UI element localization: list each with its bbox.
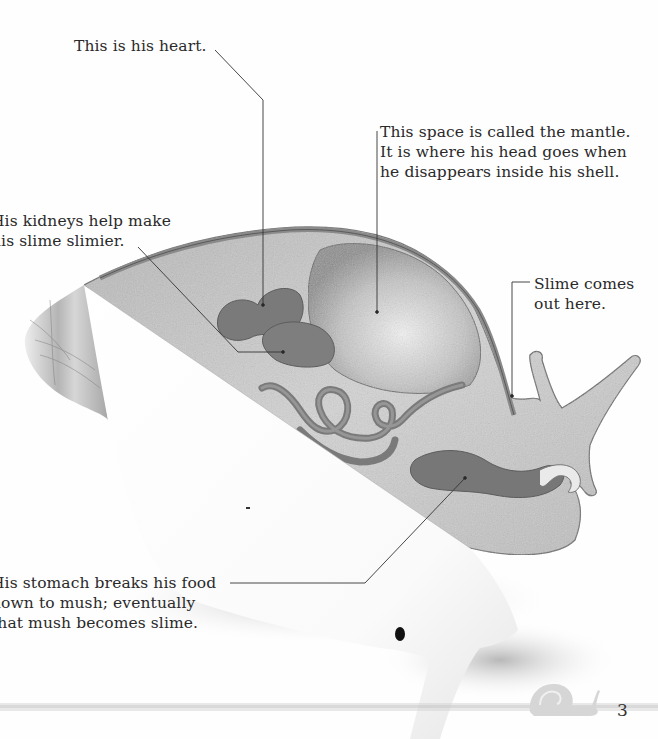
heart-label-line: This is his heart. [74,36,207,56]
speck [246,507,250,509]
footer-snail-icon [530,684,600,716]
slime-label-line-2: out here. [534,294,634,314]
stomach-label: His stomach breaks his food down to mush… [0,573,216,633]
page-number: 3 [617,700,628,720]
slime-leader-line [512,282,530,396]
stomach-label-line-1: His stomach breaks his food [0,573,216,593]
mantle-label-line-1: This space is called the mantle. [380,122,630,142]
mantle-label-line-2: It is where his head goes when [380,142,630,162]
kidneys-label-line-2: his slime slimier. [0,231,171,251]
heart-label: This is his heart. [74,36,207,56]
slime-label-line-1: Slime comes [534,274,634,294]
dark-spot [395,627,405,641]
kidneys-label-line-1: His kidneys help make [0,211,171,231]
mantle-label-line-3: he disappears inside his shell. [380,162,630,182]
kidneys-label: His kidneys help make his slime slimier. [0,211,171,251]
book-page: This is his heart. This space is called … [0,0,658,739]
slime-label: Slime comes out here. [534,274,634,314]
stomach-label-line-2: down to mush; eventually [0,593,216,613]
stomach-label-line-3: that mush becomes slime. [0,613,216,633]
mantle-label: This space is called the mantle. It is w… [380,122,630,182]
